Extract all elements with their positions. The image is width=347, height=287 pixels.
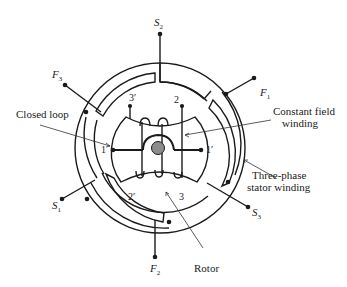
terminal-label-s3: S3: [252, 206, 262, 221]
terminal-label-s1: S1: [52, 199, 62, 214]
rotor-label: Rotor: [194, 262, 219, 274]
coil-side-3: 3: [179, 191, 184, 202]
stator-winding-label-2: stator winding: [247, 181, 311, 193]
terminal-label-f3: F3: [51, 68, 63, 83]
coil-side-2-prime: 2′: [128, 191, 135, 202]
terminal-label-s2: S2: [154, 16, 164, 31]
terminal-label-f2: F2: [149, 262, 161, 277]
stator-winding-label-1: Three-phase: [252, 169, 306, 181]
constant-field-label-1: Constant field: [273, 105, 336, 117]
coil-side-1: 1: [101, 144, 106, 155]
coil-side-1-prime: 1′: [206, 144, 213, 155]
coil-side-3-prime: 3′: [129, 92, 136, 103]
constant-field-label-2: winding: [282, 117, 319, 129]
stator-coil-phase-a: [160, 63, 211, 99]
terminal-label-f1: F1: [259, 86, 271, 101]
synchronous-machine-diagram: S2 F1 F3 S1 S3 F2 1 1′ 2 3′ 2′ 3 Closed …: [0, 0, 347, 287]
coil-side-2: 2: [174, 94, 179, 105]
closed-loop-label: Closed loop: [16, 108, 69, 120]
rotor-shaft: [152, 142, 165, 155]
